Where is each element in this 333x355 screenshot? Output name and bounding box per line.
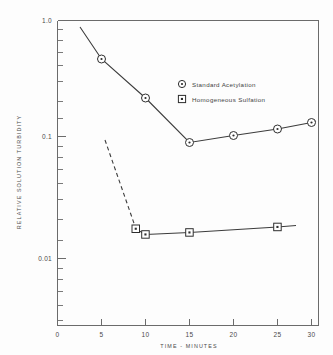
legend-label-1: Standard Acetylation bbox=[192, 81, 256, 88]
x-tick-label-5: 20 bbox=[230, 331, 238, 338]
x-tick-label-3: 10 bbox=[142, 331, 150, 338]
x-tick-label-1: 0 bbox=[56, 331, 60, 338]
chart-page: 1.0 0.1 0.01 0 5 10 15 20 25 30 TIME - M… bbox=[0, 0, 333, 355]
y-tick-label-3: 0.01 bbox=[38, 255, 52, 262]
data-point-circle-1 bbox=[98, 55, 106, 63]
x-tick-label-6: 25 bbox=[274, 331, 282, 338]
series-2-dashed-segment bbox=[105, 140, 136, 229]
data-point-square-4 bbox=[274, 223, 282, 231]
chart-legend: Standard Acetylation Homogeneous Sulfati… bbox=[178, 80, 265, 102]
x-tick-label-7: 30 bbox=[308, 331, 316, 338]
legend-entry-1: Standard Acetylation bbox=[178, 80, 256, 87]
turbidity-line-chart: 1.0 0.1 0.01 0 5 10 15 20 25 30 TIME - M… bbox=[0, 0, 333, 355]
data-point-circle-6 bbox=[308, 119, 316, 127]
x-axis-ticks bbox=[58, 319, 312, 326]
legend-entry-2: Homogeneous Sulfation bbox=[178, 95, 265, 102]
data-point-circle-5 bbox=[274, 125, 282, 133]
data-point-circle-3 bbox=[186, 139, 194, 147]
data-point-square-2 bbox=[142, 231, 150, 239]
legend-label-2: Homogeneous Sulfation bbox=[192, 96, 266, 103]
plot-frame bbox=[58, 21, 319, 326]
series-2-markers bbox=[132, 223, 281, 238]
x-axis-title: TIME - MINUTES bbox=[160, 343, 217, 349]
x-tick-label-2: 5 bbox=[100, 331, 104, 338]
data-point-circle-2 bbox=[142, 94, 150, 102]
y-tick-label-2: 0.1 bbox=[42, 133, 52, 140]
data-point-square-1 bbox=[132, 225, 140, 233]
y-axis-title: RELATIVE SOLUTION TURBIDITY bbox=[16, 115, 22, 229]
x-tick-label-4: 15 bbox=[186, 331, 194, 338]
y-tick-label-1: 1.0 bbox=[42, 17, 52, 24]
y-axis-major-ticks bbox=[58, 21, 67, 259]
legend-square-dot-icon bbox=[178, 95, 185, 102]
legend-circle-dot-icon bbox=[178, 80, 185, 87]
series-2-line bbox=[136, 226, 296, 235]
y-axis-minor-ticks bbox=[58, 30, 63, 321]
series-homogeneous-sulfation bbox=[105, 140, 296, 238]
data-point-circle-4 bbox=[230, 132, 238, 140]
data-point-square-3 bbox=[186, 229, 194, 237]
